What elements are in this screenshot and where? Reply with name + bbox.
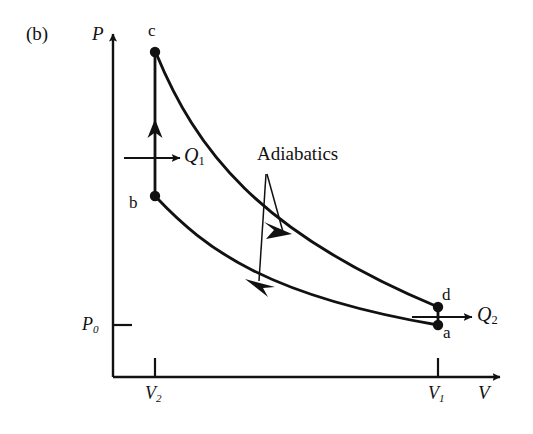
x-axis-label: V (478, 383, 490, 402)
y-axis-label: P (92, 24, 104, 43)
state-point-c (150, 47, 160, 57)
heat-label-q2-sub: 2 (491, 313, 497, 327)
adiabatic-curve-a-to-b (156, 197, 438, 325)
panel-label: (b) (26, 24, 48, 43)
adiabatics-leader-lower (259, 174, 266, 281)
x-tick-label-v1-sub: 1 (439, 392, 445, 404)
x-tick-label-v2: V2 (145, 384, 162, 404)
adiabatics-leader-upper (267, 174, 283, 232)
adiabatics-annotation-label: Adiabatics (257, 144, 338, 163)
state-point-a (433, 320, 443, 330)
state-label-d: d (442, 286, 451, 303)
arrowhead-a-to-b (245, 279, 275, 297)
adiabatic-curve-c-to-d (156, 53, 438, 307)
x-tick-label-v1: V1 (428, 384, 445, 404)
state-point-b (150, 191, 160, 201)
heat-label-q1-text: Q (184, 144, 198, 166)
pv-diagram-svg (0, 0, 533, 434)
y-tick-label-p0: P0 (82, 315, 99, 335)
x-tick-label-v2-text: V (145, 383, 156, 403)
heat-label-q1-sub: 1 (198, 154, 204, 168)
state-label-c: c (148, 22, 156, 39)
heat-label-q2-text: Q (477, 303, 491, 325)
state-label-b: b (129, 194, 138, 211)
y-tick-label-p0-text: P (82, 314, 93, 334)
x-tick-label-v1-text: V (428, 383, 439, 403)
heat-label-q2: Q2 (477, 304, 498, 327)
x-tick-label-v2-sub: 2 (156, 392, 162, 404)
state-label-a: a (443, 324, 451, 341)
y-tick-label-p0-sub: 0 (93, 323, 99, 335)
heat-label-q1: Q1 (184, 145, 205, 168)
figure-canvas: (b) P V P0 V2 V1 c b d a Q1 Q2 Adiabatic… (0, 0, 533, 434)
